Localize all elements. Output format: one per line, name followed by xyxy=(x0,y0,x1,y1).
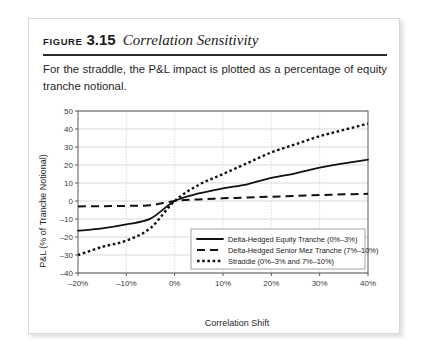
x-tick-label: 0% xyxy=(169,279,181,288)
y-axis-title: P&L (% of Tranche Notional) xyxy=(38,154,48,268)
figure-label: FIGURE xyxy=(43,36,83,47)
correlation-sensitivity-chart: 50403020100–10–20–30–40–20%–10%0%10%20%3… xyxy=(29,101,401,333)
legend-label: Delta-Hedged Equity Tranche (0%–3%) xyxy=(228,235,357,244)
y-tick-label: 10 xyxy=(64,179,73,188)
x-tick-label: –20% xyxy=(68,279,88,288)
chart-legend: Delta-Hedged Equity Tranche (0%–3%)Delta… xyxy=(191,229,378,269)
title-divider xyxy=(43,54,387,56)
y-tick-label: 0 xyxy=(69,197,74,206)
x-tick-label: 20% xyxy=(263,279,279,288)
y-tick-label: –10 xyxy=(60,215,74,224)
y-tick-label: –40 xyxy=(60,269,74,278)
y-tick-label: 20 xyxy=(64,161,73,170)
figure-description: For the straddle, the P&L impact is plot… xyxy=(43,61,387,94)
chart-container: 50403020100–10–20–30–40–20%–10%0%10%20%3… xyxy=(29,101,401,333)
y-tick-label: 50 xyxy=(64,107,73,116)
y-tick-label: –20 xyxy=(60,233,74,242)
legend-label: Straddle (0%–3% and 7%–10%) xyxy=(228,257,334,266)
figure-heading: FIGURE3.15Correlation Sensitivity xyxy=(43,31,387,49)
y-tick-label: 30 xyxy=(64,143,73,152)
x-tick-label: 30% xyxy=(312,279,328,288)
x-tick-label: 10% xyxy=(215,279,231,288)
figure-number: 3.15 xyxy=(87,31,116,48)
x-axis-title: Correlation Shift xyxy=(205,318,270,328)
x-tick-label: –10% xyxy=(116,279,136,288)
page-root: FIGURE3.15Correlation Sensitivity For th… xyxy=(0,0,429,352)
legend-label: Delta-Hedged Senior Mez Tranche (7%–10%) xyxy=(228,246,378,255)
y-tick-label: 40 xyxy=(64,125,73,134)
figure-title-text: Correlation Sensitivity xyxy=(123,32,259,48)
figure-card: FIGURE3.15Correlation Sensitivity For th… xyxy=(28,18,400,334)
figure-title-block: FIGURE3.15Correlation Sensitivity xyxy=(43,31,387,49)
y-tick-label: –30 xyxy=(60,251,74,260)
x-tick-label: 40% xyxy=(360,279,376,288)
